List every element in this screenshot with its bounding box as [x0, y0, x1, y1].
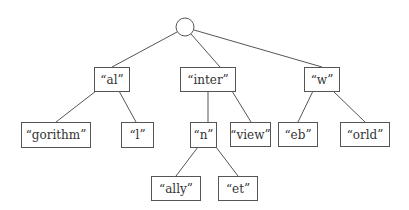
node-label: “orld” — [347, 128, 384, 142]
node-label: “gorithm” — [26, 128, 87, 142]
node-ally: “ally” — [152, 177, 201, 201]
edge-w-eb — [298, 91, 313, 122]
edge-n-et — [216, 147, 238, 176]
node-inter: “inter” — [181, 68, 236, 92]
node-w: “w” — [305, 68, 340, 92]
edges-layer — [56, 30, 365, 176]
edge-root-w — [194, 30, 322, 67]
edge-root-al — [112, 32, 177, 67]
nodes-layer: “al”“inter”“w”“gorithm”“l”“n”“view”“eb”“… — [22, 18, 390, 201]
node-al: “al” — [95, 68, 130, 92]
edge-inter-view — [232, 91, 251, 122]
node-orld: “orld” — [341, 123, 390, 147]
node-label: “al” — [100, 73, 123, 87]
node-eb: “eb” — [279, 123, 318, 147]
node-label: “l” — [129, 128, 145, 142]
edge-al-l — [119, 91, 136, 122]
node-n: “n” — [191, 123, 217, 148]
root-node — [176, 18, 194, 36]
node-label: “eb” — [284, 128, 311, 142]
edge-root-inter — [191, 34, 220, 67]
node-et: “et” — [219, 177, 258, 201]
node-label: “ally” — [159, 182, 193, 196]
node-label: “inter” — [187, 73, 229, 87]
node-label: “w” — [311, 73, 334, 87]
node-l: “l” — [122, 123, 154, 148]
edge-n-ally — [176, 147, 198, 176]
node-label: “et” — [226, 182, 250, 196]
node-label: “n” — [194, 128, 214, 142]
trie-diagram: “al”“inter”“w”“gorithm”“l”“n”“view”“eb”“… — [0, 0, 409, 210]
edge-al-gorithm — [56, 91, 96, 122]
node-label: “view” — [230, 128, 270, 142]
node-view: “view” — [230, 123, 270, 147]
edge-w-orld — [333, 91, 365, 122]
node-gorithm: “gorithm” — [22, 123, 91, 148]
